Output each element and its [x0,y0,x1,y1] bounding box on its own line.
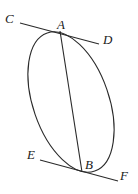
label-e: E [26,147,35,162]
label-c: C [5,11,14,26]
tangent-line-ef [40,160,118,181]
ellipse-tangent-diagram: C A D E B F [0,0,138,194]
label-b: B [85,157,93,172]
label-f: F [119,168,129,183]
chord-ab [60,31,82,172]
label-d: D [102,32,113,47]
label-a: A [56,17,65,32]
